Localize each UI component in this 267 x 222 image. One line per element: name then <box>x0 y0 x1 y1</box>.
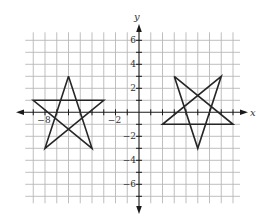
coordinate-plane: −8−2642−2−4−6 x y <box>0 0 267 222</box>
x-axis-left-arrow-icon <box>16 110 24 116</box>
x-tick-label: −2 <box>108 115 121 125</box>
x-axis-label: x <box>250 107 256 118</box>
y-tick-label: 6 <box>130 35 136 45</box>
y-tick-label: −2 <box>123 131 136 141</box>
y-axis-label: y <box>133 11 140 22</box>
y-axis-up-arrow-icon <box>136 24 142 32</box>
y-tick-label: 2 <box>130 83 136 93</box>
y-tick-label: 4 <box>130 59 136 69</box>
y-tick-label: −4 <box>123 155 137 165</box>
y-tick-label: −6 <box>123 179 137 189</box>
x-tick-label: −8 <box>37 115 51 125</box>
x-axis-right-arrow-icon <box>240 110 248 116</box>
y-axis-down-arrow-icon <box>136 206 142 214</box>
